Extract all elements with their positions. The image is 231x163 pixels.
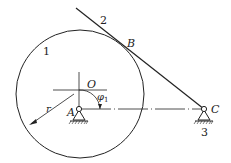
label-point-c: C (211, 103, 220, 116)
label-point-b: B (126, 37, 135, 50)
angle-subscript: 1 (104, 96, 108, 104)
angle-symbol: φ (97, 91, 104, 102)
mechanism-diagram: 1 2 3 B O A C r φ1 (0, 0, 231, 163)
label-link-1: 1 (43, 45, 50, 58)
link-2-line (76, 8, 204, 109)
label-point-o: O (87, 78, 96, 91)
label-link-2: 2 (100, 14, 107, 27)
radius-arrowhead (29, 119, 37, 125)
eccentric-disk-circle (16, 30, 144, 158)
label-link-3: 3 (201, 126, 208, 139)
angle-arc-arrowhead (98, 104, 102, 109)
label-radius: r (46, 103, 52, 114)
label-point-a: A (66, 106, 75, 119)
